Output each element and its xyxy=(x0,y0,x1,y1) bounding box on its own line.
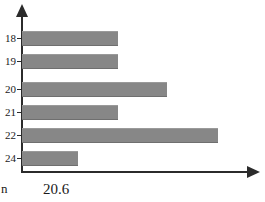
bar-21 xyxy=(22,105,118,120)
bar-22 xyxy=(22,128,218,143)
caption-value-text: 20.6 xyxy=(43,179,69,199)
y-axis-tick-label: 21 xyxy=(0,104,16,120)
caption: n 20.6 xyxy=(0,180,265,202)
plot-area: 18 19 20 21 22 24 xyxy=(0,0,265,178)
y-axis-tick-label: 22 xyxy=(0,127,16,143)
bar-24 xyxy=(22,151,78,166)
bar-19 xyxy=(22,54,118,69)
bar-chart-figure: 18 19 20 21 22 24 xyxy=(0,0,265,202)
bar-18 xyxy=(22,31,118,46)
y-axis-tick-label: 19 xyxy=(0,53,16,69)
y-axis-tick-label: 20 xyxy=(0,81,16,97)
caption-left-text: n xyxy=(1,180,8,198)
x-axis-line xyxy=(21,171,251,173)
y-axis-tick-label: 18 xyxy=(0,30,16,46)
arrow-right-icon xyxy=(247,166,260,178)
bar-20 xyxy=(22,82,167,97)
y-axis-tick-label: 24 xyxy=(0,150,16,166)
